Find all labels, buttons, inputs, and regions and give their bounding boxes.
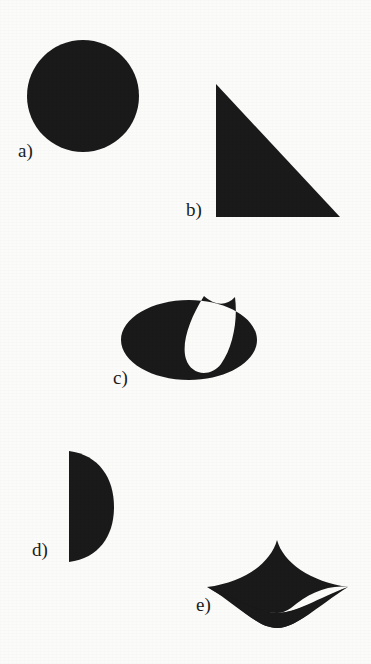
shape-label-a: a) — [18, 140, 33, 162]
shape-half-disc-d — [69, 451, 114, 562]
shape-circle-a — [27, 40, 139, 152]
shapes-canvas: a) b) c) d) e) — [0, 0, 371, 664]
shapes-figure: a) b) c) d) e) — [0, 0, 371, 664]
shape-label-b: b) — [186, 199, 202, 221]
shape-label-c: c) — [113, 367, 128, 389]
shape-label-e: e) — [196, 594, 211, 616]
shape-label-d: d) — [32, 539, 48, 561]
shape-cusped-e-base — [207, 540, 349, 613]
shape-ellipse-notch-c — [121, 296, 257, 380]
shape-triangle-b — [216, 84, 340, 217]
